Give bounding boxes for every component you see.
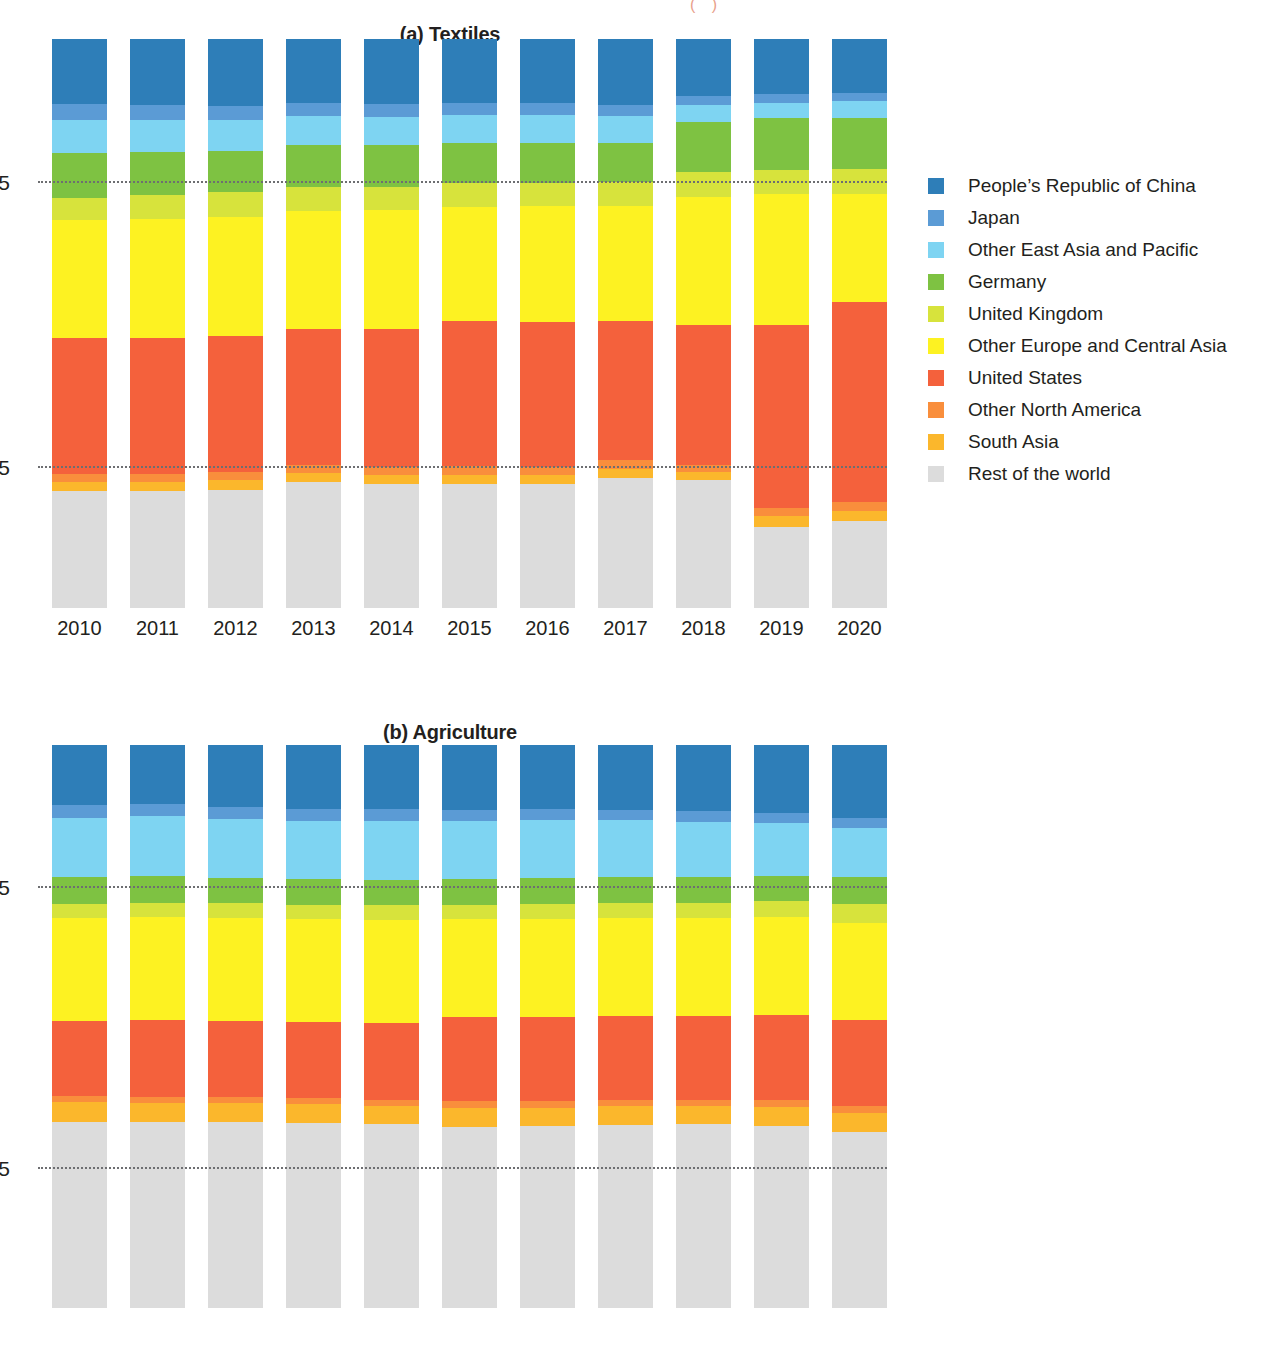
- bar-column-2016[interactable]: [520, 39, 575, 608]
- legend-item[interactable]: Japan: [928, 202, 1258, 234]
- bar-segment: [832, 877, 887, 903]
- bar-segment: [52, 1021, 107, 1096]
- bar-segment: [676, 1106, 731, 1124]
- bar-segment: [286, 1022, 341, 1098]
- bar-segment: [442, 103, 497, 115]
- bar-column-2019[interactable]: [754, 39, 809, 608]
- bar-segment: [52, 491, 107, 608]
- bar-segment: [208, 1103, 263, 1122]
- legend-swatch-icon: [928, 370, 944, 386]
- bar-segment: [130, 338, 185, 475]
- bar-segment: [208, 480, 263, 490]
- bar-segment: [286, 1104, 341, 1123]
- legend-swatch-icon: [928, 210, 944, 226]
- bar-segment: [520, 206, 575, 322]
- bar-segment: [676, 96, 731, 105]
- bar-segment: [130, 105, 185, 120]
- bar-segment: [208, 490, 263, 608]
- bar-segment: [208, 472, 263, 481]
- bar-segment: [598, 903, 653, 918]
- bar-segment: [598, 321, 653, 460]
- bar-segment: [754, 876, 809, 901]
- bar-segment: [130, 491, 185, 608]
- bar-segment: [676, 480, 731, 607]
- bar-segment: [442, 919, 497, 1016]
- bar-column-2014[interactable]: [364, 745, 419, 1308]
- panel-title-agriculture: (b) Agriculture: [0, 721, 900, 744]
- bar-segment: [442, 39, 497, 103]
- legend-item[interactable]: People’s Republic of China: [928, 170, 1258, 202]
- bar-segment: [52, 818, 107, 877]
- bar-segment: [208, 819, 263, 878]
- bar-segment: [676, 197, 731, 325]
- bar-column-2019[interactable]: [754, 745, 809, 1308]
- bar-segment: [754, 118, 809, 170]
- bar-segment: [676, 39, 731, 96]
- bar-column-2017[interactable]: [598, 39, 653, 608]
- bar-segment: [676, 105, 731, 122]
- bar-segment: [52, 904, 107, 919]
- bar-segment: [364, 880, 419, 905]
- bar-segment: [832, 828, 887, 878]
- bar-column-2015[interactable]: [442, 39, 497, 608]
- bar-segment: [208, 745, 263, 807]
- legend-item[interactable]: United Kingdom: [928, 298, 1258, 330]
- bar-column-2013[interactable]: [286, 39, 341, 608]
- y-axis-tick-label: 75: [0, 876, 10, 900]
- bar-segment: [754, 1126, 809, 1308]
- bar-segment: [520, 745, 575, 809]
- bar-segment: [442, 1017, 497, 1101]
- bar-column-2012[interactable]: [208, 745, 263, 1308]
- bar-segment: [676, 1124, 731, 1308]
- bar-segment: [130, 152, 185, 195]
- legend-item[interactable]: Other Europe and Central Asia: [928, 330, 1258, 362]
- top-fragment-mark: ( ): [690, 0, 723, 14]
- legend-item[interactable]: South Asia: [928, 426, 1258, 458]
- bar-column-2017[interactable]: [598, 745, 653, 1308]
- bar-column-2020[interactable]: [832, 745, 887, 1308]
- bar-column-2014[interactable]: [364, 39, 419, 608]
- bar-segment: [442, 321, 497, 467]
- bar-segment: [286, 187, 341, 211]
- bar-column-2011[interactable]: [130, 39, 185, 608]
- bar-segment: [52, 474, 107, 482]
- bar-column-2013[interactable]: [286, 745, 341, 1308]
- legend-item-label: Germany: [968, 271, 1046, 293]
- bar-column-2018[interactable]: [676, 745, 731, 1308]
- x-axis-label-2016: 2016: [520, 617, 575, 640]
- bar-column-2010[interactable]: [52, 39, 107, 608]
- bar-segment: [598, 820, 653, 877]
- bar-segment: [52, 120, 107, 153]
- bar-column-2012[interactable]: [208, 39, 263, 608]
- bar-segment: [286, 879, 341, 905]
- bar-segment: [832, 502, 887, 511]
- bar-column-2020[interactable]: [832, 39, 887, 608]
- bar-segment: [364, 821, 419, 880]
- legend-item[interactable]: Germany: [928, 266, 1258, 298]
- bar-segment: [520, 39, 575, 103]
- bar-column-2018[interactable]: [676, 39, 731, 608]
- bar-segment: [364, 475, 419, 484]
- bar-segment: [52, 1122, 107, 1308]
- bar-segment: [52, 745, 107, 805]
- bar-segment: [130, 917, 185, 1019]
- bar-segment: [286, 116, 341, 145]
- legend-item[interactable]: Other North America: [928, 394, 1258, 426]
- bar-segment: [520, 820, 575, 877]
- bar-column-2011[interactable]: [130, 745, 185, 1308]
- bar-segment: [52, 198, 107, 221]
- bar-segment: [364, 104, 419, 117]
- legend-item[interactable]: Other East Asia and Pacific: [928, 234, 1258, 266]
- bar-segment: [52, 482, 107, 491]
- plot-area-textiles: 2575: [52, 39, 887, 608]
- bar-column-2015[interactable]: [442, 745, 497, 1308]
- bar-column-2016[interactable]: [520, 745, 575, 1308]
- bar-segment: [598, 478, 653, 608]
- legend-item-label: Japan: [968, 207, 1020, 229]
- bar-segment: [286, 745, 341, 809]
- legend-item[interactable]: United States: [928, 362, 1258, 394]
- legend-item[interactable]: Rest of the world: [928, 458, 1258, 490]
- bar-column-2010[interactable]: [52, 745, 107, 1308]
- bar-segment: [832, 745, 887, 818]
- bar-segment: [364, 187, 419, 210]
